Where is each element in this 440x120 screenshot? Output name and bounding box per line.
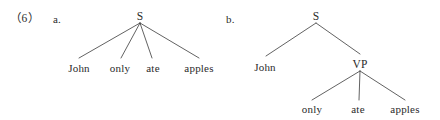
tree-b-branches xyxy=(266,23,360,56)
tree-b-vp-branches xyxy=(312,71,405,100)
tree-a-branch-3 xyxy=(140,23,152,58)
tree-b-vp-branch-2 xyxy=(359,71,360,100)
tree-a-branch-4 xyxy=(140,23,199,58)
tree-b-vp-branch-1 xyxy=(312,71,360,100)
tree-a-branches xyxy=(79,23,199,58)
tree-branch-lines xyxy=(0,0,440,120)
syntax-tree-figure: （6） a. S John only ate apples b. S John … xyxy=(0,0,440,120)
tree-b-vp-branch-3 xyxy=(360,71,405,100)
tree-b-branch-2 xyxy=(316,23,360,54)
tree-b-branch-1 xyxy=(266,23,316,56)
